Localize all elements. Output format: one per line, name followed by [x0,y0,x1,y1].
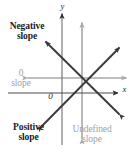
positive-slope-label: Positive slope [1,123,56,143]
zero-slope-label-line2: slope [0,79,42,89]
positive-slope-line [42,48,120,127]
zero-slope-label: 0 slope [0,69,42,89]
slope-types-diagram: Negative slope Positive slope 0 slope Un… [0,0,135,157]
negative-slope-label: Negative slope [1,22,53,42]
x-axis-label: x [120,85,129,94]
y-axis-label: y [58,2,67,11]
negative-slope-label-line2: slope [1,32,53,42]
undefined-slope-label: Undefined slope [62,125,122,145]
positive-slope-label-line2: slope [1,133,56,143]
origin-label: 0 [46,92,55,101]
undefined-slope-label-line2: slope [62,135,122,145]
